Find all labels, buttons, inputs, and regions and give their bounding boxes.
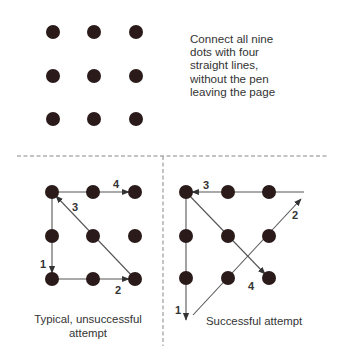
- typical-step-4: 4: [113, 178, 120, 190]
- successful-attempt-caption: Successful attempt: [206, 315, 302, 327]
- caption-line: Typical, unsuccessful: [28, 313, 148, 327]
- typical-step-3: 3: [72, 201, 78, 213]
- caption-line: attempt: [28, 327, 148, 341]
- instruction-line: dots with four: [190, 45, 320, 58]
- instruction-line: leaving the page: [190, 85, 320, 98]
- successful-attempt-lines: [186, 192, 304, 320]
- typical-step-1: 1: [40, 258, 46, 270]
- instruction-line: straight lines,: [190, 58, 320, 71]
- successful-step-3: 3: [203, 179, 209, 191]
- successful-step-2: 2: [292, 209, 298, 221]
- successful-step-4: 4: [248, 280, 255, 292]
- typical-attempt-caption: Typical, unsuccessful attempt: [28, 313, 148, 340]
- puzzle-instruction: Connect all nine dots with four straight…: [190, 32, 320, 98]
- instruction-line: Connect all nine: [190, 32, 320, 45]
- instruction-line: without the pen: [190, 72, 320, 85]
- puzzle-dot-grid: [46, 25, 143, 126]
- successful-step-1: 1: [175, 304, 181, 316]
- typical-step-2: 2: [115, 284, 121, 296]
